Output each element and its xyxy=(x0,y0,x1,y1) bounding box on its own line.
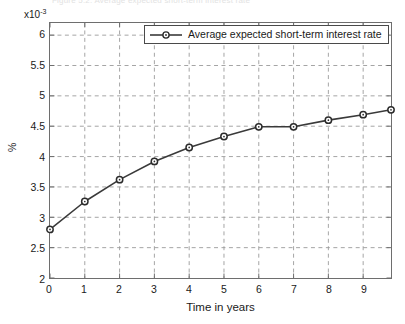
x-tick-label: 3 xyxy=(142,283,166,295)
x-tick-label: 7 xyxy=(282,283,306,295)
chart-legend: Average expected short-term interest rat… xyxy=(144,25,389,44)
legend-label: Average expected short-term interest rat… xyxy=(188,29,382,40)
legend-marker-icon xyxy=(149,29,183,41)
x-tick-label: 9 xyxy=(352,283,376,295)
interest-rate-chart-figure: Figure 5.2: Average expected short-term … xyxy=(0,0,405,324)
data-series-layer xyxy=(50,23,391,278)
plot-area xyxy=(49,22,392,279)
x-tick-label: 8 xyxy=(317,283,341,295)
x-tick-label: 0 xyxy=(37,283,61,295)
x-axis-title: Time in years xyxy=(49,301,392,313)
x-tick-label: 5 xyxy=(212,283,236,295)
x-tick-label: 4 xyxy=(177,283,201,295)
y-axis-title: % xyxy=(6,143,18,152)
x-tick-label: 6 xyxy=(247,283,271,295)
x-tick-label: 2 xyxy=(107,283,131,295)
x-tick-label: 1 xyxy=(72,283,96,295)
